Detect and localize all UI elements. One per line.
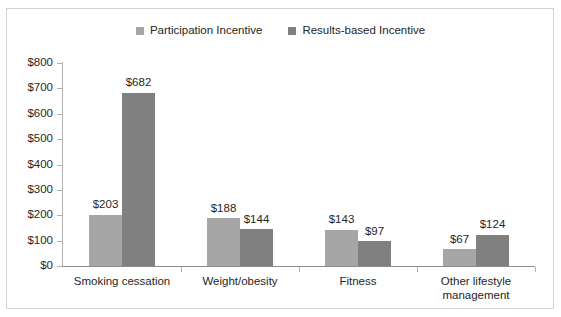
y-axis-tick-mark	[57, 190, 62, 191]
bar-group: $203$682	[89, 62, 155, 266]
bar-column[interactable]: $188	[207, 62, 240, 266]
y-axis-tick-label: $200	[3, 210, 53, 222]
bar[interactable]	[240, 229, 273, 266]
y-axis-tick-mark	[57, 266, 62, 267]
bar-column[interactable]: $203	[89, 62, 122, 266]
x-axis-tick-mark	[417, 267, 418, 272]
bar-value-label: $67	[450, 234, 469, 246]
bar-column[interactable]: $143	[325, 62, 358, 266]
bar[interactable]	[207, 218, 240, 266]
bar-column[interactable]: $682	[122, 62, 155, 266]
bar-group: $67$124	[443, 62, 509, 266]
bar-value-label: $97	[365, 226, 384, 238]
bar-column[interactable]: $124	[476, 62, 509, 266]
y-axis-labels: $800$700$600$500$400$300$200$100$0	[0, 0, 53, 317]
bar-group: $188$144	[207, 62, 273, 266]
bar-value-label: $144	[244, 214, 270, 226]
bar-value-label: $143	[329, 214, 355, 226]
bar[interactable]	[358, 241, 391, 266]
y-axis-tick-label: $400	[3, 159, 53, 171]
bar-column[interactable]: $67	[443, 62, 476, 266]
x-axis-category-label: Smoking cessation	[63, 274, 181, 288]
bar[interactable]	[476, 235, 509, 266]
y-axis-tick-mark	[57, 215, 62, 216]
y-axis-line	[62, 62, 63, 267]
x-axis-tick-mark	[535, 267, 536, 272]
x-axis-tick-mark	[181, 267, 182, 272]
bar-column[interactable]: $97	[358, 62, 391, 266]
y-axis-tick-mark	[57, 139, 62, 140]
y-axis-tick-label: $300	[3, 184, 53, 196]
bar[interactable]	[325, 230, 358, 266]
x-axis-category-label: Other lifestyle management	[417, 274, 535, 303]
bar[interactable]	[89, 215, 122, 267]
bar[interactable]	[443, 249, 476, 266]
y-axis-tick-label: $0	[3, 260, 53, 272]
bar-chart: Participation Incentive Results-based In…	[0, 0, 561, 317]
x-axis-category-label: Weight/obesity	[181, 274, 299, 288]
y-axis-tick-label: $500	[3, 133, 53, 145]
y-axis-tick-label: $800	[3, 57, 53, 69]
bar-value-label: $203	[93, 199, 119, 211]
x-axis-category-label: Fitness	[299, 274, 417, 288]
y-axis-tick-mark	[57, 165, 62, 166]
bar[interactable]	[122, 93, 155, 266]
bar-column[interactable]: $144	[240, 62, 273, 266]
bar-value-label: $682	[126, 77, 152, 89]
x-axis-tick-mark	[299, 267, 300, 272]
y-axis-tick-label: $600	[3, 108, 53, 120]
plot-area: $800$700$600$500$400$300$200$100$0 $203$…	[0, 0, 561, 317]
bar-value-label: $124	[480, 219, 506, 231]
y-axis-tick-mark	[57, 63, 62, 64]
bar-value-label: $188	[211, 203, 237, 215]
y-axis-tick-mark	[57, 114, 62, 115]
y-axis-tick-label: $700	[3, 83, 53, 95]
y-axis-tick-label: $100	[3, 235, 53, 247]
y-axis-tick-mark	[57, 241, 62, 242]
bar-group: $143$97	[325, 62, 391, 266]
y-axis-tick-mark	[57, 88, 62, 89]
